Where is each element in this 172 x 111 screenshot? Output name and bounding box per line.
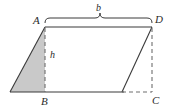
vertex-label-a: A [33,15,40,26]
vertex-label-b: B [41,96,48,107]
base-dimension-label: b [96,3,101,13]
geometry-figure: A D B C b h [0,0,172,111]
vertex-label-d: D [155,14,163,25]
parallelogram-interior [45,27,152,92]
vertex-label-c: C [152,95,159,106]
height-dimension-label: h [50,50,55,60]
base-brace [45,13,152,23]
parallelogram-diagram-svg [0,0,172,111]
